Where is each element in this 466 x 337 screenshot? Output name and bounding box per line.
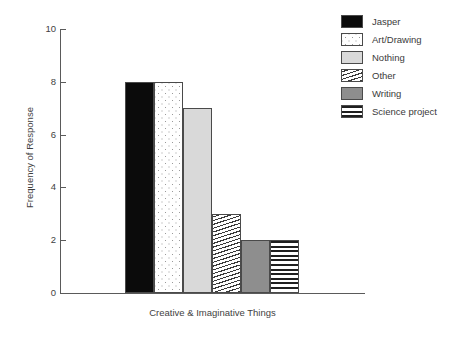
bar-nothing — [183, 108, 212, 293]
bar-other — [212, 214, 241, 293]
legend-item-jasper: Jasper — [341, 12, 466, 30]
legend-item-label: Other — [372, 70, 396, 81]
legend-swatch-icon — [341, 105, 363, 118]
bar-chart: 1086420 Frequency of Response Creative &… — [0, 0, 466, 337]
legend-item-nothing: Nothing — [341, 48, 466, 66]
bar-writing — [241, 240, 270, 293]
legend-item-label: Nothing — [372, 52, 405, 63]
legend-item-art-drawing: Art/Drawing — [341, 30, 466, 48]
bar-art-drawing — [154, 82, 183, 293]
legend-item-writing: Writing — [341, 84, 466, 102]
legend-item-other: Other — [341, 66, 466, 84]
bar-jasper — [125, 82, 154, 293]
legend-item-label: Writing — [372, 88, 401, 99]
legend-item-label: Art/Drawing — [372, 34, 422, 45]
legend-swatch-icon — [341, 87, 363, 100]
legend-swatch-icon — [341, 51, 363, 64]
chart-legend: JasperArt/DrawingNothingOtherWritingScie… — [341, 12, 466, 120]
legend-swatch-icon — [341, 33, 363, 46]
legend-swatch-icon — [341, 69, 363, 82]
legend-item-label: Jasper — [372, 16, 401, 27]
legend-swatch-icon — [341, 15, 363, 28]
legend-item-label: Science project — [372, 106, 437, 117]
legend-item-science-project: Science project — [341, 102, 466, 120]
bar-science-project — [270, 240, 299, 293]
